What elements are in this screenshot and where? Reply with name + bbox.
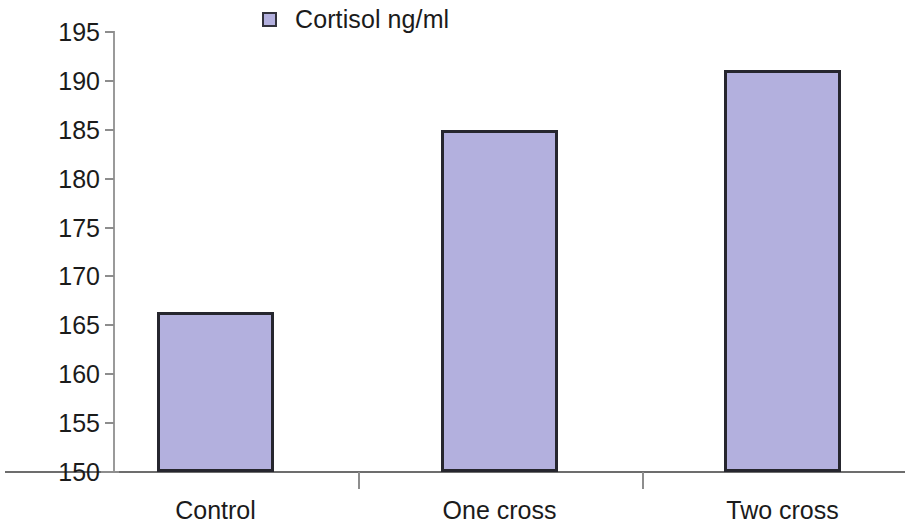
y-axis-label-175: 175 bbox=[10, 213, 100, 242]
y-tick-155 bbox=[105, 422, 114, 424]
y-tick-175 bbox=[105, 227, 114, 229]
bar-chart: Cortisol ng/ml 1501551601651701751801851… bbox=[0, 0, 910, 521]
y-tick-185 bbox=[105, 129, 114, 131]
legend-label-cortisol: Cortisol ng/ml bbox=[295, 5, 449, 34]
y-tick-165 bbox=[105, 324, 114, 326]
y-axis-label-160: 160 bbox=[10, 360, 100, 389]
y-tick-190 bbox=[105, 80, 114, 82]
legend-swatch-cortisol bbox=[262, 12, 277, 27]
bar-one-cross bbox=[441, 130, 558, 472]
y-tick-170 bbox=[105, 275, 114, 277]
chart-legend: Cortisol ng/ml bbox=[262, 2, 449, 36]
x-axis-divider-2 bbox=[642, 472, 644, 489]
bar-two-cross bbox=[724, 70, 841, 472]
y-axis-label-155: 155 bbox=[10, 409, 100, 438]
y-tick-195 bbox=[105, 31, 114, 33]
bar-control bbox=[157, 312, 274, 472]
y-tick-150 bbox=[101, 471, 119, 473]
y-axis-label-165: 165 bbox=[10, 311, 100, 340]
x-axis-divider-1 bbox=[358, 472, 360, 489]
y-axis-label-170: 170 bbox=[10, 262, 100, 291]
y-axis-line bbox=[113, 31, 115, 473]
y-axis-label-180: 180 bbox=[10, 164, 100, 193]
x-axis-label-one-cross: One cross bbox=[443, 496, 557, 521]
y-axis-label-195: 195 bbox=[10, 18, 100, 47]
y-axis-label-185: 185 bbox=[10, 115, 100, 144]
y-axis-label-190: 190 bbox=[10, 66, 100, 95]
y-tick-160 bbox=[105, 373, 114, 375]
x-axis-label-two-cross: Two cross bbox=[726, 496, 839, 521]
y-axis-labels: 150155160165170175180185190195 bbox=[0, 0, 100, 521]
x-axis-label-control: Control bbox=[175, 496, 256, 521]
y-axis-label-150: 150 bbox=[10, 458, 100, 487]
y-tick-180 bbox=[105, 178, 114, 180]
